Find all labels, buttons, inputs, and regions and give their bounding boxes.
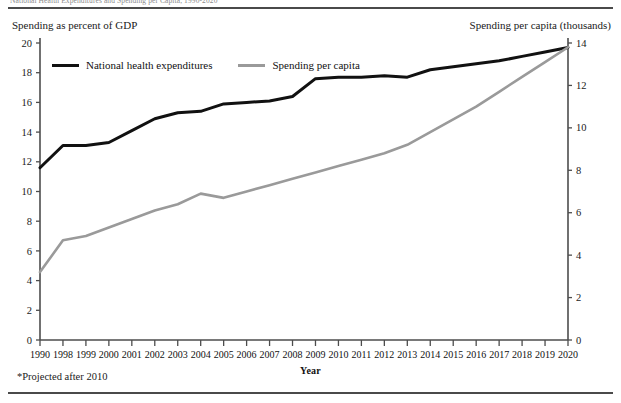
clipped-header-text: National Health Expenditures and Spendin… bbox=[10, 0, 610, 5]
x-axis-tick-label: 2014 bbox=[420, 349, 440, 360]
chart-footnote: *Projected after 2010 bbox=[17, 371, 107, 383]
x-axis-tick-label: 2001 bbox=[122, 349, 142, 360]
chart-legend: National health expendituresSpending per… bbox=[52, 59, 360, 72]
legend-swatch-icon bbox=[238, 64, 265, 67]
bottom-rule bbox=[8, 392, 613, 394]
top-rule bbox=[8, 7, 613, 9]
left-axis-tick-label: 20 bbox=[22, 38, 33, 49]
right-axis-tick-label: 0 bbox=[576, 335, 581, 346]
x-axis-tick-label: 2004 bbox=[191, 349, 211, 360]
right-axis-tick-label: 8 bbox=[576, 165, 581, 176]
x-axis-tick-label: 1990 bbox=[30, 349, 50, 360]
left-axis-tick-label: 10 bbox=[22, 186, 33, 197]
x-axis-tick-label: 2013 bbox=[397, 349, 417, 360]
x-axis-tick-label: 1998 bbox=[53, 349, 73, 360]
x-axis-tick-label: 2005 bbox=[214, 349, 234, 360]
x-axis-tick-label: 2016 bbox=[466, 349, 486, 360]
chart-page: National Health Expenditures and Spendin… bbox=[0, 0, 621, 403]
right-axis-tick-label: 10 bbox=[576, 122, 587, 133]
legend-label: Spending per capita bbox=[272, 59, 359, 72]
right-axis-tick-label: 4 bbox=[576, 250, 582, 261]
x-axis-tick-label: 2007 bbox=[260, 349, 280, 360]
left-axis-tick-label: 2 bbox=[27, 305, 32, 316]
left-axis-tick-label: 4 bbox=[27, 275, 33, 286]
series-group bbox=[40, 47, 568, 272]
legend-swatch-icon bbox=[52, 64, 79, 67]
right-axis: 02468101214 bbox=[568, 38, 587, 346]
right-axis-tick-label: 6 bbox=[576, 207, 581, 218]
x-axis-tick-label: 2019 bbox=[535, 349, 555, 360]
x-axis-tick-label: 2017 bbox=[489, 349, 509, 360]
left-axis: 02468101214161820 bbox=[22, 38, 41, 346]
x-axis-tick-label: 2002 bbox=[145, 349, 165, 360]
x-axis-tick-label: 2010 bbox=[328, 349, 348, 360]
left-axis-tick-label: 18 bbox=[22, 67, 33, 78]
series-line-spending-per-capita bbox=[40, 47, 568, 272]
x-axis-tick-label: 2012 bbox=[374, 349, 394, 360]
right-axis-tick-label: 12 bbox=[576, 80, 587, 91]
left-axis-tick-label: 0 bbox=[27, 335, 32, 346]
left-axis-tick-label: 12 bbox=[22, 156, 33, 167]
x-axis-tick-label: 2006 bbox=[237, 349, 257, 360]
x-axis-tick-label: 2020 bbox=[558, 349, 578, 360]
chart-plot-area: 02468101214161820 02468101214 1990199819… bbox=[0, 30, 621, 365]
x-axis-tick-label: 2011 bbox=[352, 349, 372, 360]
left-axis-tick-label: 14 bbox=[22, 127, 33, 138]
left-axis-tick-label: 16 bbox=[22, 97, 33, 108]
x-axis-tick-label: 1999 bbox=[76, 349, 96, 360]
x-axis-tick-label: 2018 bbox=[512, 349, 532, 360]
right-axis-tick-label: 2 bbox=[576, 292, 581, 303]
legend-item-0[interactable]: National health expenditures bbox=[52, 59, 212, 72]
legend-label: National health expenditures bbox=[86, 59, 212, 72]
legend-item-1[interactable]: Spending per capita bbox=[238, 59, 359, 72]
left-axis-tick-label: 8 bbox=[27, 216, 32, 227]
right-axis-tick-label: 14 bbox=[576, 38, 587, 49]
x-axis-tick-label: 2000 bbox=[99, 349, 119, 360]
x-axis-tick-label: 2003 bbox=[168, 349, 188, 360]
x-axis: 1990199819992000200120022003200420052006… bbox=[30, 340, 578, 360]
left-axis-tick-label: 6 bbox=[27, 246, 32, 257]
x-axis-tick-label: 2008 bbox=[283, 349, 303, 360]
x-axis-tick-label: 2015 bbox=[443, 349, 463, 360]
x-axis-tick-label: 2009 bbox=[305, 349, 325, 360]
